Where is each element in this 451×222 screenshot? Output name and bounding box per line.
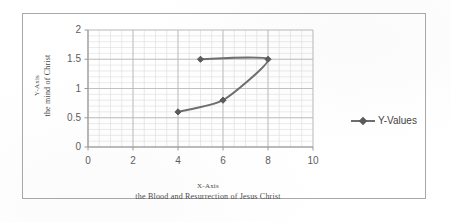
plot-area: 00.511.52 0246810 Y-Axis the mind of Chr… bbox=[23, 14, 425, 198]
x-tick-label: 4 bbox=[175, 156, 181, 166]
legend-marker-icon bbox=[351, 116, 375, 125]
axis-ticks-group bbox=[85, 30, 314, 151]
x-axis-title-line2: the Blood and Resurrection of Jesus Chri… bbox=[83, 192, 333, 202]
chart-legend: Y-Values bbox=[351, 115, 417, 126]
chart-frame: 00.511.52 0246810 Y-Axis the mind of Chr… bbox=[22, 13, 426, 199]
x-axis-title: X-Axis the Blood and Resurrection of Jes… bbox=[83, 182, 333, 201]
x-tick-label: 2 bbox=[130, 156, 136, 166]
y-axis-title-line1: Y-Axis bbox=[33, 31, 43, 141]
legend-diamond-icon bbox=[359, 116, 367, 124]
x-tick-label: 6 bbox=[220, 156, 226, 166]
y-tick-label: 0 bbox=[43, 142, 81, 152]
x-tick-label: 0 bbox=[85, 156, 91, 166]
chart-canvas bbox=[23, 14, 427, 200]
x-tick-label: 10 bbox=[307, 156, 318, 166]
y-axis-title: Y-Axis the mind of Christ bbox=[33, 31, 52, 141]
legend-label-y-values: Y-Values bbox=[378, 115, 417, 126]
x-axis-title-line1: X-Axis bbox=[83, 182, 333, 192]
x-tick-label: 8 bbox=[265, 156, 271, 166]
y-axis-title-line2: the mind of Christ bbox=[42, 31, 52, 141]
